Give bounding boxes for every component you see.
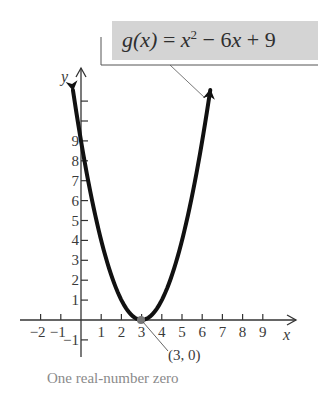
y-axis-label: y — [59, 68, 69, 86]
x-tick-label: 1 — [97, 324, 105, 340]
x-tick-label: 4 — [158, 324, 166, 340]
y-tick-label: 8 — [72, 153, 80, 169]
y-tick-label: 4 — [72, 232, 80, 248]
y-tick-label: 9 — [72, 133, 80, 149]
y-tick-label: 7 — [72, 173, 80, 189]
point-label: (3, 0) — [168, 347, 201, 364]
x-tick-label: 2 — [118, 324, 126, 340]
x-tick-label: 7 — [219, 324, 227, 340]
y-tick-label: 2 — [72, 272, 80, 288]
y-tick-label: −1 — [63, 332, 79, 348]
x-tick-label: 8 — [239, 324, 247, 340]
x-tick-label: 9 — [259, 324, 267, 340]
x-tick-label: 6 — [198, 324, 206, 340]
x-axis-label: x — [282, 326, 290, 343]
equation-term2: − 6 — [197, 27, 231, 52]
y-tick-label: 3 — [72, 252, 80, 268]
caption: One real-number zero — [47, 370, 179, 387]
x-tick-label: −2 — [30, 324, 46, 340]
equation-equals: = — [163, 27, 181, 52]
y-ticks: −1123456789 — [63, 101, 88, 348]
equation-term3: + 9 — [241, 27, 275, 52]
parabola-curve — [73, 90, 210, 320]
x-tick-label: 3 — [138, 324, 146, 340]
equation-fn: g(x) — [122, 27, 157, 52]
equation-x2: x — [232, 27, 242, 52]
y-tick-label: 6 — [72, 193, 80, 209]
x-tick-label: 5 — [178, 324, 186, 340]
equation-x: x — [181, 27, 191, 52]
equation-label: g(x) = x2 − 6x + 9 — [122, 27, 276, 53]
y-tick-label: 1 — [72, 292, 80, 308]
y-tick-label: 5 — [72, 213, 80, 229]
